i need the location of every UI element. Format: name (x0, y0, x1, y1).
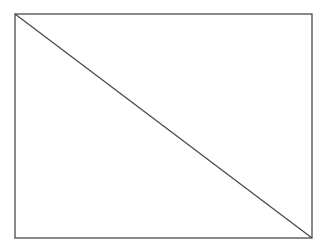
diagonal-line (15, 14, 312, 238)
diagram-canvas (0, 0, 327, 250)
